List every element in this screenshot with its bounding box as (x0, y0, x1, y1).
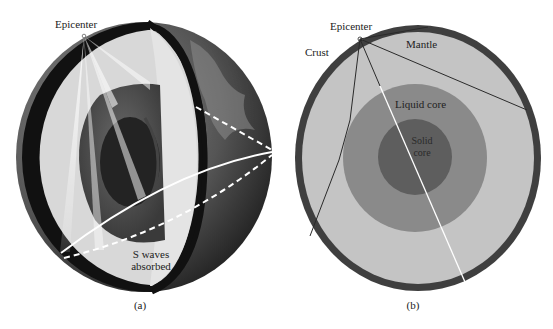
label-solid-core-line1: Solid (405, 135, 439, 147)
label-crust: Crust (305, 46, 329, 58)
label-mantle: Mantle (406, 38, 437, 50)
label-solid-core: Solid core (405, 135, 439, 159)
label-s-waves-line1: S waves (116, 248, 186, 260)
label-liquid-core: Liquid core (395, 98, 446, 110)
label-s-waves-line2: absorbed (116, 260, 186, 272)
label-s-waves-absorbed: S waves absorbed (116, 248, 186, 272)
caption-b: (b) (401, 299, 425, 311)
label-epicenter-a: Epicenter (55, 18, 97, 30)
epicenter-marker-a (82, 34, 86, 38)
label-epicenter-b: Epicenter (330, 20, 372, 32)
label-solid-core-line2: core (405, 147, 439, 159)
caption-a: (a) (128, 299, 152, 311)
earth-interior-diagrams (0, 0, 553, 329)
